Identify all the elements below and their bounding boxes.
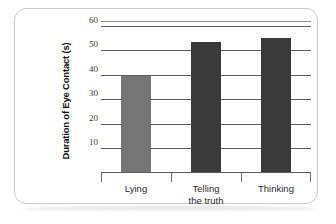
y-tick-label: 20 xyxy=(89,113,98,124)
bar xyxy=(261,38,291,172)
plot-region: Duration of Eye Contact (s) 102030405060… xyxy=(79,21,311,193)
chart-card: Duration of Eye Contact (s) 102030405060… xyxy=(14,8,318,204)
x-tick-label: Thinking xyxy=(241,183,311,195)
y-tick-label: 50 xyxy=(89,39,98,50)
plot-area: 102030405060 LyingTelling the truthThink… xyxy=(101,21,311,173)
x-axis-tick xyxy=(310,173,311,182)
x-tick-label: Telling the truth xyxy=(171,183,241,206)
y-tick-label: 40 xyxy=(89,64,98,75)
bar xyxy=(191,42,221,172)
gridline-60 xyxy=(101,26,311,27)
x-axis-tick xyxy=(101,173,102,182)
bar xyxy=(121,76,151,172)
x-axis-tick xyxy=(241,173,242,182)
y-axis-title: Duration of Eye Contact (s) xyxy=(59,21,73,181)
gridline-top xyxy=(101,21,311,22)
x-axis-line xyxy=(101,172,311,173)
card-shadow xyxy=(22,206,318,212)
y-tick-label: 30 xyxy=(89,88,98,99)
x-tick-label: Lying xyxy=(101,183,171,195)
y-tick-label: 10 xyxy=(89,137,98,148)
x-axis-tick xyxy=(171,173,172,182)
y-tick-label: 60 xyxy=(89,15,98,26)
